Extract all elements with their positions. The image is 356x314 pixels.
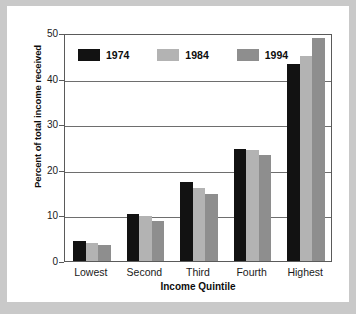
legend-entry-1974: 1974: [78, 49, 129, 61]
bar-group: [65, 35, 119, 261]
x-axis-tick-label: Second: [118, 266, 172, 278]
legend-swatch-1994: [237, 49, 259, 61]
y-axis-tick-label: 50: [47, 29, 58, 39]
chart-legend: 197419841994: [78, 49, 288, 61]
legend-label-1984: 1984: [185, 49, 208, 61]
figure-card: Percent of total income received 0102030…: [7, 6, 349, 302]
bar-1974-lowest: [73, 241, 86, 261]
x-axis-tick-label: Lowest: [64, 266, 118, 278]
bar-1994-third: [205, 194, 218, 261]
y-axis-tick-mark: [59, 262, 64, 263]
legend-entry-1994: 1994: [237, 49, 288, 61]
y-axis-tick-label: 40: [47, 75, 58, 85]
bar-1984-fourth: [246, 150, 259, 261]
plot-area: [64, 34, 332, 262]
y-axis-tick-labels: 01020304050: [36, 34, 58, 262]
y-axis-tick-label: 0: [52, 257, 58, 267]
x-axis-title: Income Quintile: [64, 281, 332, 292]
bar-1974-highest: [287, 64, 300, 261]
figure-outer-frame: Percent of total income received 0102030…: [0, 0, 356, 314]
y-axis-tick-label: 20: [47, 166, 58, 176]
legend-swatch-1984: [157, 49, 179, 61]
bar-1984-highest: [300, 56, 313, 261]
legend-label-1974: 1974: [106, 49, 129, 61]
bar-1984-lowest: [86, 243, 99, 261]
x-axis-tick-label: Fourth: [225, 266, 279, 278]
bar-1974-third: [180, 182, 193, 261]
bar-1974-fourth: [234, 149, 247, 261]
x-axis-tick-label: Highest: [278, 266, 332, 278]
bar-1994-highest: [312, 38, 325, 261]
bar-1984-third: [193, 188, 206, 261]
bar-group: [172, 35, 226, 261]
bar-group: [226, 35, 280, 261]
x-axis-tick-label: Third: [171, 266, 225, 278]
bar-group: [279, 35, 333, 261]
y-axis-tick-mark: [59, 171, 64, 172]
y-axis-tick-label: 30: [47, 120, 58, 130]
y-axis-tick-mark: [59, 34, 64, 35]
bar-1994-fourth: [259, 155, 272, 261]
bar-1994-lowest: [98, 245, 111, 261]
legend-label-1994: 1994: [265, 49, 288, 61]
y-axis-tick-mark: [59, 80, 64, 81]
y-axis-tick-mark: [59, 216, 64, 217]
bar-1984-second: [139, 216, 152, 261]
bar-1994-second: [152, 221, 165, 261]
legend-entry-1984: 1984: [157, 49, 208, 61]
legend-swatch-1974: [78, 49, 100, 61]
y-axis-tick-label: 10: [47, 211, 58, 221]
bar-1974-second: [127, 214, 140, 261]
y-axis-tick-mark: [59, 125, 64, 126]
bar-group: [119, 35, 173, 261]
